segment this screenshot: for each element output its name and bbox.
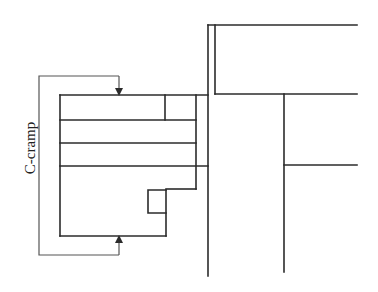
right-frame <box>215 94 357 272</box>
notch <box>148 190 166 213</box>
board-stack <box>60 95 208 236</box>
c-cramp-diagram: C-cramp <box>0 0 378 292</box>
c-cramp-label: C-cramp <box>22 122 38 174</box>
upright-post <box>208 25 357 276</box>
